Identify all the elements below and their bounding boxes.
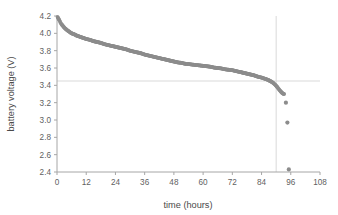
x-tick-label-4: 48 [169,178,179,187]
data-point [282,92,286,96]
chart-canvas: 01224364860728496108 2.42.62.83.03.23.43… [0,0,338,215]
y-tick-label-1: 2.6 [40,151,52,160]
data-point-tail [287,167,291,171]
y-axis-ticks: 2.42.62.83.03.23.43.63.84.04.2 [40,12,57,177]
y-tick-label-7: 3.8 [40,47,52,56]
plot-background [57,16,320,172]
y-tick-label-5: 3.4 [40,81,52,90]
data-point-tail [284,101,288,105]
x-tick-label-5: 60 [199,178,209,187]
y-tick-label-6: 3.6 [40,64,52,73]
x-axis-ticks: 01224364860728496108 [55,172,328,187]
y-tick-label-8: 4.0 [40,29,52,38]
y-tick-label-3: 3.0 [40,116,52,125]
y-tick-label-9: 4.2 [40,12,52,21]
y-axis-title: battery voltage (V) [6,56,16,131]
y-tick-label-2: 2.8 [40,133,52,142]
x-tick-label-9: 108 [313,178,327,187]
x-axis-title: time (hours) [163,200,212,210]
x-tick-label-0: 0 [55,178,60,187]
x-tick-label-7: 84 [257,178,267,187]
x-tick-label-1: 12 [82,178,92,187]
x-tick-label-3: 36 [140,178,150,187]
x-tick-label-8: 96 [286,178,296,187]
x-tick-label-2: 24 [111,178,121,187]
x-tick-label-6: 72 [228,178,238,187]
data-point-tail [285,121,289,125]
y-tick-label-4: 3.2 [40,99,52,108]
y-tick-label-0: 2.4 [40,168,52,177]
battery-discharge-chart: 01224364860728496108 2.42.62.83.03.23.43… [0,0,338,215]
